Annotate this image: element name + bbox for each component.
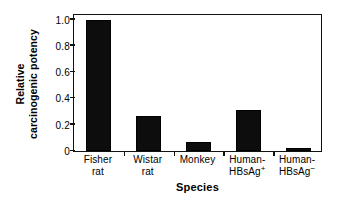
bar-series bbox=[74, 15, 321, 151]
bar bbox=[86, 20, 111, 151]
y-axis-title-line-1: Relative bbox=[14, 29, 27, 139]
bar bbox=[136, 116, 161, 151]
y-tick-label: 0 bbox=[44, 147, 70, 157]
y-axis-title-line-2: carcinogenic potency bbox=[26, 29, 39, 139]
bar bbox=[286, 148, 311, 151]
bar bbox=[236, 110, 261, 151]
x-category-label-line-1: Fisher bbox=[84, 154, 112, 165]
x-axis-category-labels: FisherratWistarratMonkeyHuman-HBsAg+Huma… bbox=[73, 154, 322, 184]
y-tick-label: 1.0 bbox=[44, 16, 70, 26]
y-tick-label: 0.6 bbox=[44, 68, 70, 78]
x-category-label-line-2: rat bbox=[123, 166, 173, 178]
y-axis-tick-labels: 00.20.40.60.81.0 bbox=[44, 0, 70, 206]
x-category-label-line-2: rat bbox=[73, 166, 123, 178]
x-category-label-superscript: − bbox=[311, 163, 316, 172]
x-category-label-line-2: HBsAg+ bbox=[222, 166, 272, 178]
y-tick-label: 0.2 bbox=[44, 121, 70, 131]
x-category-label: Monkey bbox=[173, 154, 223, 166]
bar bbox=[186, 142, 211, 151]
x-category-label: Human-HBsAg+ bbox=[222, 154, 272, 177]
plot-area bbox=[73, 14, 322, 152]
x-axis-title: Species bbox=[73, 181, 322, 193]
y-tick-label: 0.8 bbox=[44, 42, 70, 52]
x-category-label-superscript: + bbox=[261, 163, 266, 172]
bar-chart-figure: Relative carcinogenic potency 00.20.40.6… bbox=[0, 0, 338, 206]
x-category-label: Human-HBsAg− bbox=[272, 154, 322, 177]
y-tick-label: 0.4 bbox=[44, 94, 70, 104]
x-category-label: Wistarrat bbox=[123, 154, 173, 177]
x-category-label-line-1: Wistar bbox=[133, 154, 162, 165]
x-category-label-line-1: Monkey bbox=[180, 154, 216, 165]
y-axis-title: Relative carcinogenic potency bbox=[6, 14, 46, 153]
x-category-label-line-2: HBsAg− bbox=[272, 166, 322, 178]
x-category-label: Fisherrat bbox=[73, 154, 123, 177]
